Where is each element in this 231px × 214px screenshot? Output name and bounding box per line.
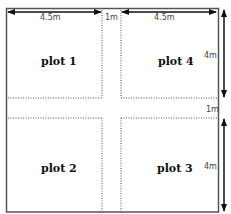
plot-4-label: plot 4 bbox=[158, 55, 194, 68]
plot-2-label: plot 2 bbox=[41, 162, 77, 175]
dim-gap-height: 1m bbox=[206, 105, 219, 114]
diagram-lines bbox=[0, 0, 231, 214]
outer-border bbox=[7, 9, 219, 213]
plot-3-label: plot 3 bbox=[157, 162, 193, 175]
dim-gap-width: 1m bbox=[105, 13, 118, 22]
dim-right-top-height: 4m bbox=[204, 51, 217, 60]
plot-1-label: plot 1 bbox=[41, 55, 77, 68]
plot-layout-diagram: 4.5m 1m 4.5m 4m 1m 4m plot 1 plot 4 plot… bbox=[0, 0, 231, 214]
dim-top-left-width: 4.5m bbox=[40, 13, 61, 22]
dim-right-bottom-height: 4m bbox=[204, 162, 217, 171]
dim-top-right-width: 4.5m bbox=[154, 13, 175, 22]
